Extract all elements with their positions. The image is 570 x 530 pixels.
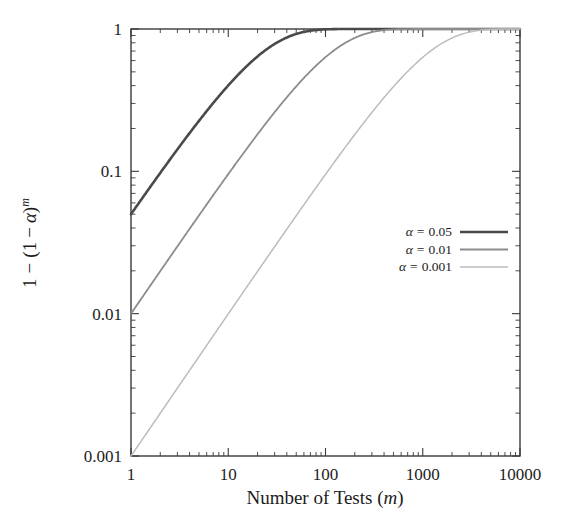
y-title-one-2: 1 [19, 242, 40, 252]
y-tick-label: 1 [114, 20, 123, 39]
legend-alpha-symbol: α [406, 224, 414, 239]
y-title-minus-1: − [19, 263, 40, 274]
y-axis-major-ticks [131, 29, 520, 456]
legend-label-0: α=0.05 [406, 224, 453, 239]
curve-alpha-0p001 [131, 29, 520, 456]
familywise-error-rate-log-log-plot: 110100100010000 10.10.010.001 Number of … [0, 0, 570, 530]
y-title-exponent: m [18, 198, 32, 207]
legend-label-2: α=0.001 [399, 259, 452, 274]
curve-alpha-0p01 [131, 29, 520, 314]
x-axis-title-variable: m [384, 487, 398, 508]
x-axis-title: Number of Tests (m) [246, 487, 403, 509]
legend-alpha-symbol: α [406, 242, 414, 257]
legend-equals: = [410, 259, 418, 274]
x-axis-title-suffix: ) [397, 487, 403, 509]
legend-equals: = [417, 224, 425, 239]
data-curves [131, 29, 520, 456]
x-axis-title-prefix: Number of Tests ( [246, 487, 383, 509]
legend: α=0.05α=0.01α=0.001 [399, 224, 508, 274]
legend-value: 0.01 [428, 242, 452, 257]
y-axis-tick-labels: 10.10.010.001 [84, 20, 122, 466]
y-axis-minor-ticks [131, 36, 520, 414]
legend-value: 0.001 [422, 259, 452, 274]
legend-equals: = [417, 242, 425, 257]
y-tick-label: 0.01 [92, 305, 122, 324]
legend-value: 0.05 [428, 224, 452, 239]
chart-figure: 110100100010000 10.10.010.001 Number of … [0, 0, 570, 530]
y-tick-label: 0.001 [84, 447, 122, 466]
legend-label-1: α=0.01 [406, 242, 452, 257]
x-axis-minor-ticks [131, 29, 520, 456]
x-tick-label: 10000 [499, 465, 542, 484]
plot-frame [131, 29, 520, 456]
legend-alpha-symbol: α [399, 259, 407, 274]
y-tick-label: 0.1 [101, 162, 122, 181]
x-tick-label: 1000 [406, 465, 440, 484]
y-title-minus-2: − [19, 227, 40, 238]
x-tick-label: 10 [220, 465, 237, 484]
x-tick-label: 100 [313, 465, 339, 484]
y-axis-title: 1−(1−α)m [18, 198, 41, 288]
x-axis-tick-labels: 110100100010000 [127, 465, 542, 484]
y-title-one: 1 [19, 278, 40, 288]
x-tick-label: 1 [127, 465, 136, 484]
